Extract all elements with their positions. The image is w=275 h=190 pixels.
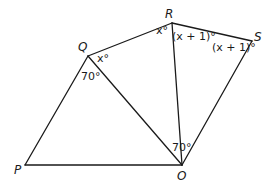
segment-QO (88, 56, 182, 165)
angle-label-q-70: 70° (81, 70, 101, 83)
segment-PQ (25, 56, 88, 165)
vertex-label-p: P (14, 163, 22, 177)
angle-label-o-70: 70° (172, 141, 192, 154)
vertex-label-o: O (177, 169, 186, 183)
angle-label-r-x-plus-1: (x + 1)° (172, 30, 216, 43)
vertex-label-q: Q (78, 40, 87, 54)
vertex-label-r: R (165, 7, 173, 21)
angle-label-r-x: x° (156, 24, 168, 37)
geometry-diagram: Q R S P O x° x° (x + 1)° (x + 1)° 70° 70… (0, 0, 275, 190)
angle-label-q-x: x° (97, 52, 109, 65)
angle-label-s-x-plus-1: (x + 1)° (212, 41, 256, 54)
segment-SO (182, 41, 252, 165)
